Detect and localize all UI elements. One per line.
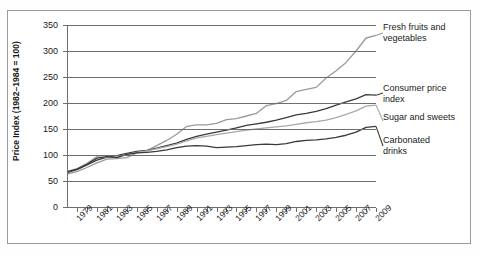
legend-entry: Sugar and sweets (383, 112, 475, 123)
series-lines (67, 25, 376, 207)
plot-area (67, 25, 376, 207)
legend-label: Carbonated (383, 135, 475, 146)
gridline (67, 155, 376, 156)
y-tick-label: 0 (24, 202, 58, 212)
legend-label: Consumer price (383, 83, 475, 94)
legend-entry: Consumer priceindex (383, 83, 475, 104)
gridline (67, 103, 376, 104)
legend-label-cont: index (383, 94, 475, 105)
gridline (67, 181, 376, 182)
y-tick-label: 250 (24, 72, 58, 82)
chart-figure: Price Index (1982–1984 = 100) 0501001502… (0, 0, 481, 255)
legend-entry: Carbonateddrinks (383, 135, 475, 156)
gridline (67, 77, 376, 78)
legend-entry: Fresh fruits andvegetables (383, 22, 475, 43)
chart-legend: Fresh fruits andvegetablesConsumer price… (383, 0, 478, 255)
series-line (67, 35, 376, 174)
legend-label-cont: vegetables (383, 33, 475, 44)
legend-label-cont: drinks (383, 146, 475, 157)
gridline (67, 51, 376, 52)
y-axis-title: Price Index (1982–1984 = 100) (11, 11, 21, 191)
y-tick-label: 100 (24, 150, 58, 160)
y-tick-label: 50 (24, 176, 58, 186)
gridline (67, 129, 376, 130)
legend-label: Sugar and sweets (383, 112, 475, 123)
series-line (67, 126, 376, 171)
y-tick-label: 200 (24, 98, 58, 108)
y-axis-line (67, 25, 68, 207)
y-tick-label: 300 (24, 46, 58, 56)
legend-label: Fresh fruits and (383, 22, 475, 33)
y-tick-label: 150 (24, 124, 58, 134)
y-tick-label: 350 (24, 20, 58, 30)
gridline (67, 25, 376, 26)
